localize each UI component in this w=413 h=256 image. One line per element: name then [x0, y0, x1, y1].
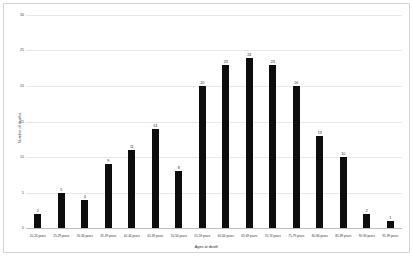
x-axis-tick-label: 95-99 years [379, 231, 403, 241]
bar-value-label: 11 [120, 145, 144, 149]
bar[interactable] [293, 86, 300, 228]
y-axis-tick-label: 20 [20, 84, 24, 88]
bar[interactable] [128, 150, 135, 228]
bar-value-label: 1 [379, 216, 403, 220]
bar-value-label: 13 [308, 131, 332, 135]
bar-value-label: 24 [238, 53, 262, 57]
x-axis-title: Ages at death [4, 245, 409, 249]
bar[interactable] [81, 200, 88, 228]
bar-slot: 23 [261, 15, 285, 228]
x-axis-tick-label: 55-59 years [191, 231, 215, 241]
bar-value-label: 10 [332, 152, 356, 156]
bar[interactable] [246, 58, 253, 228]
bar[interactable] [105, 164, 112, 228]
bar-value-label: 2 [26, 209, 50, 213]
x-axis-tick-label: 20-24 years [26, 231, 50, 241]
x-axis-tick-label: 65-69 years [238, 231, 262, 241]
bar-value-label: 9 [97, 159, 121, 163]
x-axis-tick-label: 30-34 years [73, 231, 97, 241]
x-axis-tick-label: 90-94 years [355, 231, 379, 241]
x-axis-tick-label: 75-79 years [285, 231, 309, 241]
bar-slot: 14 [144, 15, 168, 228]
bar-value-label: 20 [285, 81, 309, 85]
bar[interactable] [340, 157, 347, 228]
bar-slot: 8 [167, 15, 191, 228]
x-axis-tick-label: 80-84 years [308, 231, 332, 241]
bar-slot: 20 [285, 15, 309, 228]
bar[interactable] [222, 65, 229, 228]
bar[interactable] [269, 65, 276, 228]
bar-slot: 10 [332, 15, 356, 228]
x-axis-tick-label: 50-54 years [167, 231, 191, 241]
bar-slot: 2 [355, 15, 379, 228]
x-axis-tick-label: 70-74 years [261, 231, 285, 241]
y-axis-tick-label: 10 [20, 155, 24, 159]
x-axis-tick-label: 35-39 years [97, 231, 121, 241]
bar[interactable] [58, 193, 65, 228]
y-axis-tick-label: 15 [20, 120, 24, 124]
y-axis-tick-label: 5 [22, 191, 24, 195]
bar[interactable] [152, 129, 159, 228]
bar-value-label: 8 [167, 166, 191, 170]
bar-slot: 13 [308, 15, 332, 228]
x-axis-tick-label: 25-29 years [50, 231, 74, 241]
y-axis-tick-label: 25 [20, 48, 24, 52]
bar-slot: 23 [214, 15, 238, 228]
bar-value-label: 23 [261, 60, 285, 64]
bar-slot: 5 [50, 15, 74, 228]
x-axis-line: 0 [26, 228, 402, 229]
bar-slot: 2 [26, 15, 50, 228]
bar[interactable] [363, 214, 370, 228]
x-axis-tick-label: 60-64 years [214, 231, 238, 241]
bar-value-label: 4 [73, 195, 97, 199]
bar-slot: 24 [238, 15, 262, 228]
chart-plot-wrapper: Number of deaths 051015202530 2549111482… [4, 4, 409, 252]
bar[interactable] [316, 136, 323, 228]
bar[interactable] [34, 214, 41, 228]
bar-slot: 20 [191, 15, 215, 228]
y-axis-tick-label: 0 [22, 226, 24, 230]
bar[interactable] [175, 171, 182, 228]
bar-value-label: 2 [355, 209, 379, 213]
plot-area: 051015202530 2549111482023242320131021 [26, 15, 402, 228]
x-axis-tick-labels: 20-24 years25-29 years30-34 years35-39 y… [26, 231, 402, 241]
bar-series: 2549111482023242320131021 [26, 15, 402, 228]
x-axis-tick-label: 45-49 years [144, 231, 168, 241]
chart-container: Number of deaths 051015202530 2549111482… [3, 3, 410, 253]
bar[interactable] [199, 86, 206, 228]
x-axis-tick-label: 85-89 years [332, 231, 356, 241]
bar-value-label: 14 [144, 124, 168, 128]
y-axis-title: Number of deaths [18, 113, 22, 143]
x-axis-tick-label: 40-44 years [120, 231, 144, 241]
bar-value-label: 23 [214, 60, 238, 64]
bar-slot: 9 [97, 15, 121, 228]
bar-value-label: 20 [191, 81, 215, 85]
bar-slot: 1 [379, 15, 403, 228]
y-axis-tick-label: 30 [20, 13, 24, 17]
bar-value-label: 5 [50, 188, 74, 192]
bar-slot: 4 [73, 15, 97, 228]
bar-slot: 11 [120, 15, 144, 228]
bar[interactable] [387, 221, 394, 228]
